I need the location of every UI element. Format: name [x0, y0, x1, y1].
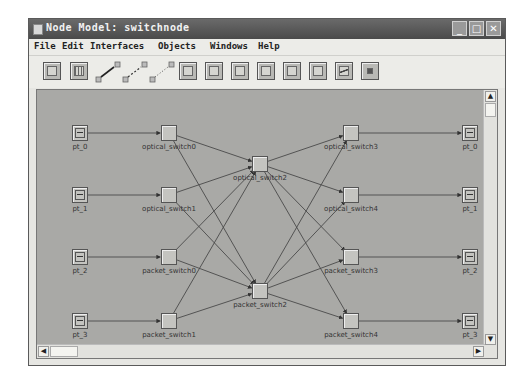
- port-node[interactable]: [72, 187, 88, 203]
- vertical-scroll-thumb[interactable]: [485, 103, 496, 117]
- create-radio-transmitter-button[interactable]: [231, 62, 249, 80]
- bus-transmitter-icon: [287, 66, 297, 76]
- node-label: pt_2: [462, 267, 477, 275]
- port-node[interactable]: [72, 249, 88, 265]
- create-logical-association-button[interactable]: [149, 60, 175, 84]
- switch-node[interactable]: [343, 125, 359, 141]
- node-label: packet_switch3: [324, 267, 378, 275]
- scroll-up-button[interactable]: ▲: [485, 91, 496, 102]
- create-processor-button[interactable]: [43, 62, 61, 80]
- node-label: pt_1: [72, 205, 87, 213]
- maximize-button[interactable]: □: [469, 21, 484, 36]
- node-label: packet_switch2: [233, 301, 287, 309]
- horizontal-scroll-thumb[interactable]: [50, 346, 78, 357]
- scrollbar-corner: [484, 345, 497, 358]
- node-label: packet_switch4: [324, 331, 378, 339]
- bus-receiver-icon: [313, 66, 323, 76]
- node-label: pt_3: [462, 331, 477, 339]
- node-label: pt_1: [462, 205, 477, 213]
- port-icon: [75, 128, 85, 138]
- port-icon: [75, 252, 85, 262]
- vertical-scrollbar[interactable]: ▲ ▼: [483, 90, 497, 346]
- menu-interfaces[interactable]: Interfaces: [90, 41, 144, 51]
- switch-node[interactable]: [161, 187, 177, 203]
- menu-edit[interactable]: Edit: [62, 41, 84, 51]
- port-node[interactable]: [462, 249, 478, 265]
- create-packet-stream-button[interactable]: [95, 60, 121, 84]
- node-label: packet_switch0: [142, 267, 196, 275]
- switch-node[interactable]: [252, 156, 268, 172]
- queue-icon: [74, 66, 84, 76]
- create-antenna-button[interactable]: [335, 62, 353, 80]
- create-statistic-wire-button[interactable]: [122, 60, 148, 84]
- switch-node[interactable]: [161, 313, 177, 329]
- node-label: packet_switch1: [142, 331, 196, 339]
- switch-node[interactable]: [161, 249, 177, 265]
- window-controls: _ □ ✕: [452, 21, 501, 36]
- close-button[interactable]: ✕: [486, 21, 501, 36]
- node-label: optical_switch1: [142, 205, 196, 213]
- node-label: pt_2: [72, 267, 87, 275]
- receiver-icon: [209, 66, 219, 76]
- menu-bar: File Edit Interfaces Objects Windows Hel…: [29, 39, 505, 56]
- node-label: pt_0: [72, 143, 87, 151]
- port-icon: [465, 128, 475, 138]
- minimize-button[interactable]: _: [452, 21, 467, 36]
- radio-receiver-icon: [261, 66, 271, 76]
- port-node[interactable]: [462, 187, 478, 203]
- editor-area: pt_0pt_1pt_2pt_3optical_switch0optical_s…: [36, 89, 498, 359]
- packet-stream-link[interactable]: [173, 172, 255, 314]
- create-bus-receiver-button[interactable]: [309, 62, 327, 80]
- radio-transmitter-icon: [235, 66, 245, 76]
- port-icon: [75, 190, 85, 200]
- scroll-right-button[interactable]: ▶: [473, 346, 484, 357]
- create-bus-transmitter-button[interactable]: [283, 62, 301, 80]
- switch-node[interactable]: [343, 249, 359, 265]
- external-system-icon: [367, 68, 373, 74]
- switch-node[interactable]: [252, 283, 268, 299]
- node-editor-canvas[interactable]: pt_0pt_1pt_2pt_3optical_switch0optical_s…: [37, 90, 485, 346]
- port-icon: [465, 252, 475, 262]
- node-label: pt_3: [72, 331, 87, 339]
- menu-objects[interactable]: Objects: [158, 41, 196, 51]
- window-title: Node Model: switchnode: [46, 22, 189, 33]
- node-label: optical_switch2: [233, 174, 287, 182]
- switch-node[interactable]: [161, 125, 177, 141]
- create-receiver-button[interactable]: [205, 62, 223, 80]
- transmitter-icon: [183, 66, 193, 76]
- node-label: optical_switch0: [142, 143, 196, 151]
- horizontal-scrollbar[interactable]: ◀ ▶: [37, 344, 485, 358]
- create-radio-receiver-button[interactable]: [257, 62, 275, 80]
- system-menu-icon[interactable]: [33, 24, 43, 35]
- port-icon: [465, 190, 475, 200]
- port-node[interactable]: [462, 313, 478, 329]
- menu-file[interactable]: File: [34, 41, 56, 51]
- scroll-left-button[interactable]: ◀: [38, 346, 49, 357]
- node-label: optical_switch4: [324, 205, 378, 213]
- scroll-down-button[interactable]: ▼: [485, 334, 496, 345]
- node-label: optical_switch3: [324, 143, 378, 151]
- create-external-system-button[interactable]: [361, 62, 379, 80]
- port-node[interactable]: [462, 125, 478, 141]
- port-icon: [465, 316, 475, 326]
- menu-windows[interactable]: Windows: [210, 41, 248, 51]
- port-node[interactable]: [72, 125, 88, 141]
- processor-icon: [47, 66, 57, 76]
- switch-node[interactable]: [343, 313, 359, 329]
- node-model-window: Node Model: switchnode _ □ ✕ File Edit I…: [28, 18, 506, 366]
- node-label: pt_0: [462, 143, 477, 151]
- create-transmitter-button[interactable]: [179, 62, 197, 80]
- port-icon: [75, 316, 85, 326]
- port-node[interactable]: [72, 313, 88, 329]
- create-queue-button[interactable]: [70, 62, 88, 80]
- antenna-icon: [339, 66, 349, 76]
- packet-stream-link[interactable]: [264, 171, 346, 313]
- title-bar[interactable]: Node Model: switchnode _ □ ✕: [29, 19, 505, 39]
- toolbar: [29, 56, 505, 88]
- menu-help[interactable]: Help: [258, 41, 280, 51]
- switch-node[interactable]: [343, 187, 359, 203]
